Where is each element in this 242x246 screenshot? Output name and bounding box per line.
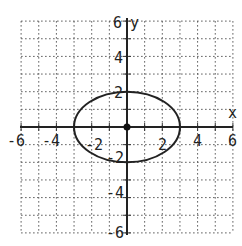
x-tick-label: -2 xyxy=(85,136,103,154)
y-tick-label: 4 xyxy=(114,49,123,67)
x-tick-label: 2 xyxy=(158,136,167,154)
coordinate-plane: -6 -4 -2 2 4 6 6 4 2 -2 -4 -6 y x xyxy=(0,0,242,246)
y-tick-label: -6 xyxy=(106,224,124,242)
y-tick-label: -4 xyxy=(106,184,124,202)
x-tick-label: 6 xyxy=(228,132,237,150)
x-tick-label: -4 xyxy=(42,132,60,150)
center-point xyxy=(124,124,131,131)
x-axis-label: x xyxy=(228,104,237,122)
y-tick-label: -2 xyxy=(106,149,124,167)
x-tick-label: 4 xyxy=(193,132,202,150)
y-tick-label: 2 xyxy=(114,84,123,102)
x-tick-label: -6 xyxy=(7,132,25,150)
y-axis-label: y xyxy=(130,14,139,32)
y-tick-label: 6 xyxy=(113,14,122,32)
